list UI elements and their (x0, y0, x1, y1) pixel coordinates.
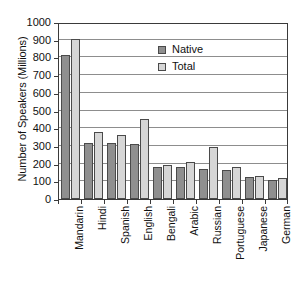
bar-total (232, 167, 241, 199)
bar-native (153, 167, 162, 199)
y-tick-label: 400 (11, 123, 51, 134)
bar-native (176, 167, 185, 199)
bar-total (117, 135, 126, 199)
x-tick-label: German (281, 206, 292, 244)
y-axis-tick-labels: 01002003004005006007008009001000 (0, 0, 58, 296)
x-tick-mark (265, 200, 266, 204)
y-tick-label: 800 (11, 52, 51, 63)
bar-total (255, 176, 264, 199)
bar-group (59, 24, 82, 199)
total-swatch-icon (158, 63, 166, 71)
bar-group (128, 24, 151, 199)
bar-total (209, 147, 218, 199)
bar-total (278, 178, 287, 199)
x-tick-label: Bengali (166, 206, 177, 241)
bar-total (163, 165, 172, 200)
bar-native (222, 170, 231, 199)
bar-native (199, 169, 208, 199)
bar-native (130, 144, 139, 199)
x-tick-mark (150, 200, 151, 204)
bar-total (71, 39, 80, 199)
bar-group (105, 24, 128, 199)
y-tick-label: 100 (11, 176, 51, 187)
x-tick-mark (58, 200, 59, 204)
legend-item-native: Native (158, 42, 236, 57)
legend-label-native: Native (172, 44, 203, 55)
native-swatch-icon (158, 46, 166, 54)
x-tick-mark (173, 200, 174, 204)
bar-chart: Number of Speakers (Millions) 0100200300… (0, 0, 305, 296)
x-tick-mark (104, 200, 105, 204)
x-tick-label: Russian (212, 206, 223, 244)
x-tick-label: Spanish (120, 206, 131, 244)
x-axis-tick-labels: MandarinHindiSpanishEnglishBengaliArabic… (58, 206, 288, 292)
x-tick-label: Portuguese (235, 206, 246, 260)
x-tick-label: Mandarin (74, 206, 85, 250)
legend-label-total: Total (172, 61, 195, 72)
x-tick-mark (287, 200, 288, 204)
chart-legend: Native Total (158, 42, 236, 76)
bar-native (107, 143, 116, 199)
x-tick-label: English (143, 206, 154, 240)
y-tick-label: 200 (11, 159, 51, 170)
x-tick-mark (127, 200, 128, 204)
bar-native (61, 55, 70, 199)
bar-total (94, 132, 103, 199)
y-tick-label: 700 (11, 70, 51, 81)
legend-item-total: Total (158, 59, 236, 74)
bar-total (186, 162, 195, 199)
y-tick-label: 600 (11, 88, 51, 99)
x-tick-label: Hindi (97, 206, 108, 230)
bar-total (140, 119, 149, 199)
y-tick-label: 300 (11, 141, 51, 152)
y-tick-label: 1000 (11, 17, 51, 28)
bar-native (84, 143, 93, 199)
x-tick-mark (196, 200, 197, 204)
y-tick-label: 0 (11, 194, 51, 205)
x-tick-label: Arabic (189, 206, 200, 236)
x-tick-mark (242, 200, 243, 204)
y-tick-label: 900 (11, 35, 51, 46)
x-tick-mark (81, 200, 82, 204)
bar-group (243, 24, 266, 199)
x-tick-label: Japanese (258, 206, 269, 252)
bar-group (82, 24, 105, 199)
bar-native (245, 177, 254, 199)
x-axis-tick-marks (58, 200, 288, 205)
y-tick-label: 500 (11, 106, 51, 117)
bar-group (266, 24, 289, 199)
x-tick-mark (219, 200, 220, 204)
bar-native (268, 180, 277, 199)
